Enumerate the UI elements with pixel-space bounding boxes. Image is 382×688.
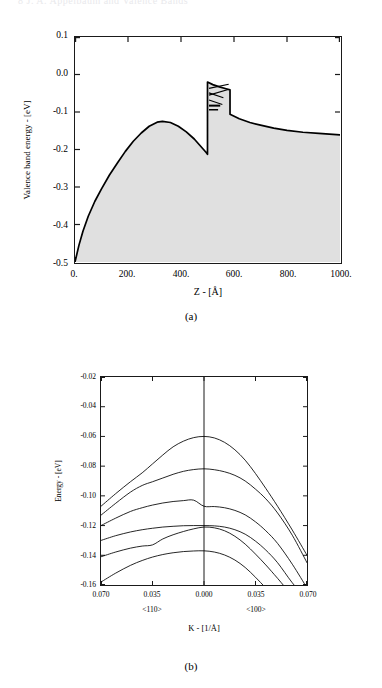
figure-b: Energy - [eV] -0.02 -0.04 -0.06 -0.08 -0… [0, 368, 382, 688]
figure-b-x-axis-label: K - [1/Å] [100, 623, 308, 633]
figure-a: Valence band energy - [eV] 0.1 0.0 -0.1 … [0, 22, 382, 322]
figure-b-ytick-3: -0.08 [58, 462, 96, 470]
figure-b-plot-area [100, 376, 308, 586]
figure-b-xtick-2: 0.000 [184, 591, 224, 599]
figure-b-canvas [101, 377, 307, 585]
figure-b-xtick-3: 0.035 [236, 591, 276, 599]
figure-a-xtick-3: 600. [214, 270, 254, 280]
figure-a-xtick-0: 0. [54, 270, 94, 280]
figure-b-ytick-4: -0.10 [58, 492, 96, 500]
running-header: 8 J. A. Appelbaum and Valence Bands [0, 0, 382, 11]
figure-a-canvas [75, 37, 340, 262]
figure-a-plot-area [74, 36, 342, 264]
figure-b-xtick-1: 0.035 [132, 591, 172, 599]
figure-a-caption: (a) [0, 310, 382, 322]
figure-a-xtick-2: 400. [161, 270, 201, 280]
figure-a-xtick-5: 1000. [321, 270, 361, 280]
figure-a-ytick-2: -0.1 [28, 107, 68, 117]
figure-b-ytick-1: -0.04 [58, 402, 96, 410]
figure-b-direction-110: <110> [127, 606, 177, 614]
figure-a-xtick-1: 200. [107, 270, 147, 280]
figure-b-xtick-4: 0.070 [288, 591, 328, 599]
figure-a-ytick-6: -0.5 [28, 259, 68, 269]
figure-b-ytick-6: -0.14 [58, 552, 96, 560]
figure-b-ytick-5: -0.12 [58, 522, 96, 530]
figure-a-ytick-1: 0.0 [28, 69, 68, 79]
figure-a-ytick-3: -0.2 [28, 145, 68, 155]
figure-b-direction-100: <100> [231, 606, 281, 614]
figure-b-xtick-0: 0.070 [81, 591, 121, 599]
figure-b-ytick-0: -0.02 [58, 373, 96, 381]
figure-b-ytick-2: -0.06 [58, 432, 96, 440]
figure-a-x-axis-label: Z - [Å] [74, 286, 342, 297]
figure-b-ytick-7: -0.16 [58, 581, 96, 589]
figure-a-ytick-5: -0.4 [28, 221, 68, 231]
figure-page: 8 J. A. Appelbaum and Valence Bands Vale… [0, 0, 382, 688]
figure-a-ytick-4: -0.3 [28, 183, 68, 193]
running-header-text: 8 J. A. Appelbaum and Valence Bands [18, 0, 382, 6]
figure-a-xtick-4: 800. [268, 270, 308, 280]
figure-b-caption: (b) [0, 660, 382, 672]
figure-a-ytick-0: 0.1 [28, 31, 68, 41]
